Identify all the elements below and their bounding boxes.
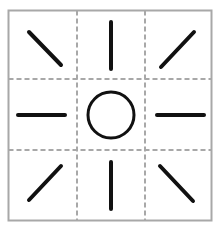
ray-top-left (29, 32, 61, 65)
ray-bottom-right (160, 166, 193, 201)
ray-bottom-left (29, 166, 61, 200)
ray-top-right (161, 32, 194, 67)
center-circle (88, 92, 134, 138)
sun-diagram (0, 0, 216, 226)
rays-group (18, 22, 204, 209)
